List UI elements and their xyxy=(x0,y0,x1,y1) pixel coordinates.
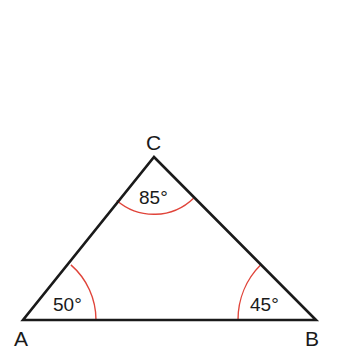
angle-label-c: 85° xyxy=(139,187,168,208)
angle-label-a: 50° xyxy=(53,294,82,315)
vertex-label-b: B xyxy=(305,327,319,350)
triangle-diagram: A B C 50° 45° 85° xyxy=(0,0,337,360)
vertex-label-c: C xyxy=(146,131,161,154)
angle-label-b: 45° xyxy=(250,294,279,315)
vertex-label-a: A xyxy=(14,327,28,350)
